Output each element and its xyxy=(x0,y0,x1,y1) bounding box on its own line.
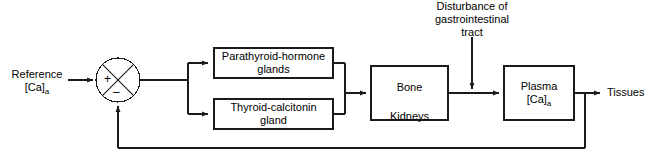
disturbance-label: Disturbance of gastrointestinal tract xyxy=(412,0,532,39)
disturbance-line2: gastrointestinal xyxy=(412,13,532,26)
block-parathyroid xyxy=(214,48,333,78)
reference-label-line2: [Ca]a xyxy=(6,81,68,98)
block-bone-kidneys xyxy=(371,66,448,120)
block-plasma xyxy=(504,66,574,120)
reference-label-line1: Reference xyxy=(6,68,68,81)
disturbance-line3: tract xyxy=(412,26,532,39)
block-thyroid xyxy=(214,99,333,129)
diagram-canvas xyxy=(0,0,657,167)
comparator-plus-sign: + xyxy=(104,73,111,85)
output-label-tissues: Tissues xyxy=(607,86,645,99)
block-diagram: Reference [Ca]a + – Parathyroid-hormone … xyxy=(0,0,657,167)
reference-ca-subscript: a xyxy=(45,87,49,96)
comparator-minus-sign: – xyxy=(113,86,120,98)
reference-input-label: Reference [Ca]a xyxy=(6,68,68,98)
disturbance-line1: Disturbance of xyxy=(412,0,532,13)
reference-ca-text: [Ca] xyxy=(25,81,45,93)
